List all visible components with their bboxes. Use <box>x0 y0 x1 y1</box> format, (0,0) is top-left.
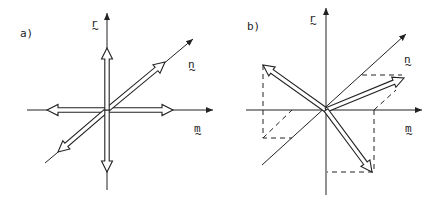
n-tilde: ~ <box>189 64 196 77</box>
projection-right-diag <box>374 90 396 110</box>
panel-b-label: b) <box>247 20 260 33</box>
vector-neg-r <box>102 110 113 172</box>
vector-lower-right <box>324 109 372 172</box>
vector-neg-m <box>47 105 107 116</box>
vector-upper-left <box>263 65 327 112</box>
n-axis <box>262 34 406 165</box>
vector-pos-r <box>102 48 113 110</box>
vector-pos-m <box>107 105 173 116</box>
vector-right <box>325 77 404 112</box>
m-tilde: ~ <box>195 128 202 141</box>
double-arrows-b <box>263 65 404 172</box>
figure: a) r ~ n ~ m ~ b) r ~ n ~ m ~ <box>0 0 440 203</box>
vector-neg-n <box>58 108 108 152</box>
panel-a: a) r ~ n ~ m ~ <box>20 13 213 190</box>
m-tilde: ~ <box>406 128 413 141</box>
projection-upper-left-diag <box>263 110 292 138</box>
vector-pos-n <box>106 62 165 112</box>
r-tilde: ~ <box>92 23 99 36</box>
double-arrows-a <box>47 48 173 172</box>
n-tilde: ~ <box>405 59 412 72</box>
panel-b: b) r ~ n ~ m ~ <box>246 8 422 195</box>
r-tilde: ~ <box>310 18 317 31</box>
panel-a-label: a) <box>20 27 33 40</box>
